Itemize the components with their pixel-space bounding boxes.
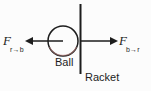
force-arrow-racket-on-ball [25, 37, 63, 45]
force-subscript-right: b→r [126, 46, 140, 53]
force-arrow-ball-on-racket [80, 37, 118, 45]
force-arrow-left-head [25, 37, 33, 45]
racket-label: Racket [85, 72, 119, 83]
force-label-racket-on-ball: Fr→b [3, 32, 25, 50]
ball-lower-arc-tint [50, 47, 77, 55]
force-pair-diagram: Fr→b Fb→r Ball Racket [0, 0, 151, 91]
force-arrow-right-head [110, 37, 118, 45]
force-subscript-left: r→b [10, 46, 24, 53]
force-label-ball-on-racket: Fb→r [119, 32, 141, 50]
ball-label: Ball [55, 57, 73, 68]
